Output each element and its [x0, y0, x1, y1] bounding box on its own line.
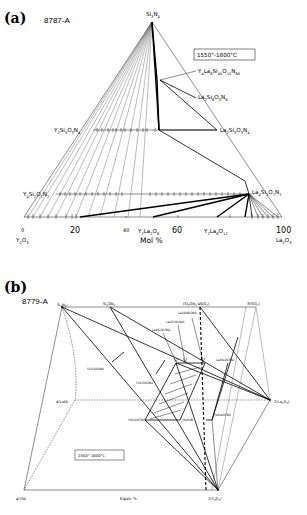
label-y4la6si45o15n60: Y4La6Si45O15N60 [197, 68, 241, 76]
tie-y4la6-la2si3 [160, 80, 217, 130]
corner-si2on2-4sio2-label: (Si2ON2·4SiO2) [183, 302, 210, 307]
label-y2la6o12: Y2La6O12 [203, 228, 228, 236]
node-y2o3 [217, 489, 219, 491]
corner-4lan-label: 4(LaN) [56, 400, 69, 404]
panel-b-letter: (b) [4, 279, 27, 295]
axis-tick-40: 40 [123, 227, 129, 233]
tie-lines-from-la4si2o7n2 [80, 181, 278, 217]
apex-si3n4-label: Si3N4 [146, 11, 161, 19]
axis-tick-20: 20 [70, 226, 80, 235]
edge-left [24, 307, 62, 490]
label-la4si2o7n2: La4Si2O7N2 [252, 189, 281, 197]
label-y2si3o3n4: Y2Si3O3N4 [53, 127, 81, 135]
tie-si2on2-la2o3 [110, 307, 270, 400]
label-b-la2si3o3n4: La2Si3O3N4 [166, 320, 185, 324]
tie-to-la4si2o7n2 [159, 130, 245, 181]
panel-b: (b) 8779-A Si3N4 Si2ON2 (Si2ON2·4SiO2) 3… [4, 279, 290, 502]
label-b-lasio2n: La4Si2O7N2 [216, 358, 235, 362]
label-la2si3o3n4: La2Si3O3N4 [220, 127, 250, 135]
corner-si2on2-label: Si2ON2 [103, 302, 115, 307]
label-la2si6o3n8: La2Si6O3N8 [198, 94, 228, 102]
tie-lines-from-si3n4 [28, 22, 152, 217]
panel-a-letter: (a) [4, 10, 26, 26]
edge-sio2-y2o3 [218, 307, 256, 490]
panel-a-axis-title: Mol % [140, 236, 163, 245]
tie-si3n4-y2o3 [62, 307, 218, 490]
dashed-si3n4-lan-yn [24, 307, 76, 490]
corner-y2o3-label: Y2O3 [15, 237, 28, 245]
panel-b-code: 8779-A [22, 297, 48, 306]
corner-2la2o3-label: 2(La2O3) [274, 400, 290, 405]
label-b-y2si3o3n4: Y2Si3O3N4 [136, 381, 153, 385]
axis-tick-100: 100 [276, 226, 291, 235]
label-b-y4si2o7n2-right: Y4Si2O7N2 [214, 413, 231, 417]
corner-3sio2-label: 3(SiO2) [247, 302, 260, 307]
tie-si2on2-y2o3 [110, 307, 218, 490]
panel-a: (a) 8787-A Si3N4 1550°-1800°C [4, 10, 292, 245]
panel-b-axis-title: Equiv % [120, 496, 137, 501]
tie-ysio2n-y2o3 [212, 420, 218, 490]
corner-la2o3-label: La2O3 [276, 237, 292, 245]
label-y2la2o6: Y2La2O6 [137, 228, 160, 236]
tie-y4la6-edge [160, 71, 196, 80]
tie-sio2-y2o3-inner [212, 307, 246, 490]
tie-y4la6-vertical [157, 80, 159, 130]
edge-sio2-la2o3 [256, 307, 270, 400]
label-b-ysio2n: YSiO2N [182, 418, 193, 422]
label-b-la4si2o7n2-upper: La4Si2O7N2 [152, 328, 171, 332]
phase-diagram-figure: (a) 8787-A Si3N4 1550°-1800°C [0, 0, 307, 515]
node-la2o3 [269, 399, 271, 401]
corner-2y2o3-label: 2(Y2O3) [208, 497, 222, 502]
label-b-la2si6o3n8: La2Si6O3N8 [178, 311, 197, 315]
node-si3n4 [61, 306, 63, 308]
hatched-region [150, 367, 200, 419]
marker-y2si2o3n4 [112, 352, 124, 362]
label-b-y4si2o7n2: Y4Si2O7N2 [128, 418, 145, 422]
marker-y2si3o3n4 [156, 360, 165, 374]
panel-a-temperature: 1550°-1800°C [197, 52, 237, 58]
axis-tick-0: 0 [21, 227, 24, 233]
dashed-si2on2sio2-vertical [200, 307, 206, 490]
panel-b-temperature: 1550°-1800°C [78, 453, 105, 458]
label-b-y2si2o3n4: Y2Si2O3N4 [87, 367, 104, 371]
panel-a-code: 8787-A [44, 16, 70, 25]
tie-y4si2-y2o3 [145, 420, 218, 490]
corner-4yn-label: 4(YN) [16, 497, 27, 501]
axis-tick-60: 60 [172, 226, 182, 235]
